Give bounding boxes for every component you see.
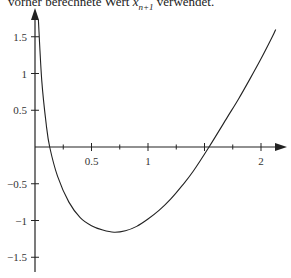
- x-tick-label: 2: [258, 155, 264, 167]
- y-axis-arrow-icon: [31, 8, 39, 20]
- y-tick-label: −1: [15, 215, 27, 227]
- x-tick-label: 1: [145, 155, 151, 167]
- y-tick-label: −1.5: [7, 251, 27, 263]
- y-tick-label: 0.5: [13, 104, 27, 116]
- function-curve: [38, 20, 275, 232]
- function-plot: 0.5121.510.5−0.5−1−1.5: [0, 0, 291, 278]
- y-tick-label: 1.5: [13, 31, 27, 43]
- x-tick-label: 0.5: [85, 155, 99, 167]
- y-tick-label: 1: [22, 68, 28, 80]
- x-axis-arrow-icon: [275, 143, 287, 151]
- y-tick-label: −0.5: [7, 178, 27, 190]
